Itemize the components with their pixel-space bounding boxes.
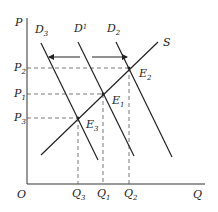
p1-label: P1 xyxy=(13,87,26,102)
supply-curve xyxy=(41,42,158,155)
demand-curve-d3 xyxy=(41,43,98,160)
d1-label: D1 xyxy=(73,22,87,35)
p2-label: P2 xyxy=(13,61,26,76)
supply-demand-diagram: P Q O S D3 D1 D2 E2 E1 E3 P2 P1 P3 Q3 Q1… xyxy=(0,0,218,212)
e1-label: E1 xyxy=(111,94,125,109)
p3-label: P3 xyxy=(13,111,26,126)
q2-label: Q2 xyxy=(124,187,138,202)
equilibrium-point-e1 xyxy=(102,93,105,96)
q1-label: Q1 xyxy=(97,187,111,202)
d3-label: D3 xyxy=(34,23,49,38)
demand-curve-d1 xyxy=(78,42,134,156)
q3-label: Q3 xyxy=(72,187,86,202)
equilibrium-point-e2 xyxy=(128,67,131,70)
equilibrium-point-e3 xyxy=(77,117,80,120)
y-axis-label: P xyxy=(14,16,23,29)
origin-label: O xyxy=(17,188,26,201)
e2-label: E2 xyxy=(138,67,152,82)
diagram-canvas: P Q O S D3 D1 D2 E2 E1 E3 P2 P1 P3 Q3 Q1… xyxy=(0,0,218,212)
e3-label: E3 xyxy=(85,118,99,133)
d2-label: D2 xyxy=(106,22,121,37)
demand-curve-d2 xyxy=(116,42,172,157)
x-axis-label: Q xyxy=(193,188,202,201)
supply-label: S xyxy=(163,36,171,49)
